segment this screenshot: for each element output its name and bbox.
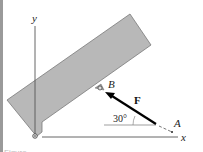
plate (7, 14, 151, 136)
x-axis-label: x (180, 131, 186, 143)
y-axis-label: y (31, 12, 37, 24)
pivot-pin-center (34, 135, 36, 137)
line-of-action (159, 126, 172, 132)
force-label: F (134, 94, 141, 106)
angle-label: 30° (113, 113, 127, 124)
point-a-dot (171, 131, 173, 133)
angle-arc (133, 116, 135, 125)
left-border (0, 0, 3, 152)
figure-caption: Figure (4, 148, 27, 152)
point-b-label: B (108, 78, 115, 90)
point-a-label: A (173, 117, 181, 129)
pin-b-icon (98, 86, 102, 90)
statics-diagram: y x B 30° F A Figure (0, 0, 203, 152)
